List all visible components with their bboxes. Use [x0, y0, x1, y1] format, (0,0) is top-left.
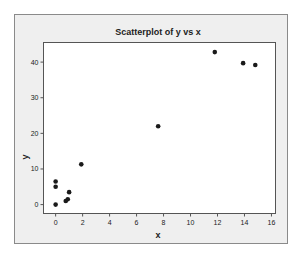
- y-tick-label: 0: [35, 201, 39, 208]
- data-point: [79, 162, 84, 167]
- y-tick-label: 20: [31, 130, 39, 137]
- data-point: [65, 197, 70, 202]
- x-tick-label: 4: [108, 219, 112, 226]
- y-tick-label: 30: [31, 94, 39, 101]
- y-axis-label: y: [20, 154, 30, 159]
- x-tick-label: 2: [81, 219, 85, 226]
- x-tick-label: 10: [187, 219, 195, 226]
- data-point: [53, 202, 58, 207]
- x-tick-label: 16: [268, 219, 276, 226]
- y-tick-label: 10: [31, 165, 39, 172]
- x-tick-label: 12: [214, 219, 222, 226]
- y-tick-label: 40: [31, 59, 39, 66]
- data-point: [67, 190, 72, 195]
- data-point: [253, 63, 258, 68]
- data-point: [53, 184, 58, 189]
- chart-title: Scatterplot of y vs x: [115, 27, 201, 37]
- x-tick-label: 8: [162, 219, 166, 226]
- y-axis-ticks: 010203040: [31, 59, 44, 209]
- x-axis-ticks: 0246810121416: [54, 214, 276, 226]
- scatter-chart: Scatterplot of y vs x 0246810121416 0102…: [0, 0, 301, 260]
- data-point: [53, 179, 58, 184]
- x-tick-label: 14: [241, 219, 249, 226]
- x-axis-label: x: [155, 230, 160, 240]
- x-tick-label: 6: [135, 219, 139, 226]
- data-point: [156, 124, 161, 129]
- data-point: [213, 50, 218, 55]
- x-tick-label: 0: [54, 219, 58, 226]
- data-point: [241, 61, 246, 66]
